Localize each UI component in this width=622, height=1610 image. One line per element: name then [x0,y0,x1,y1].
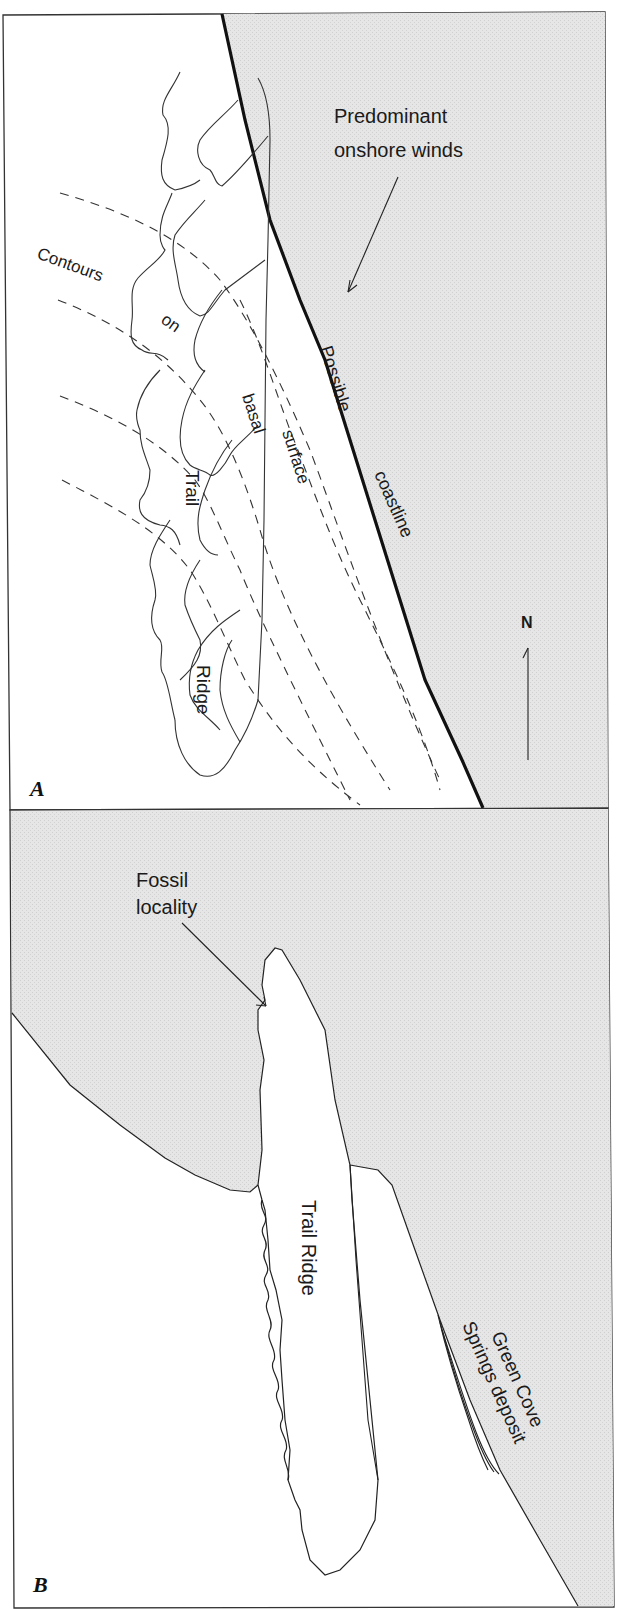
winds-label-line2: onshore winds [334,139,463,161]
panel-b: Fossil locality Trail Ridge Green Cove S… [10,808,614,1608]
panel-b-letter: B [32,1572,48,1597]
ridge-label-trail: Trail [182,470,203,506]
panel-a: Predominant onshore winds Contours on ba… [3,12,608,810]
panel-a-letter: A [28,776,45,801]
ridge-label-ridge: Ridge [193,665,214,715]
trail-ridge-label: Trail Ridge [298,1200,320,1296]
north-label: N [521,614,533,631]
fossil-label-line2: locality [136,896,197,918]
trail-ridge-figure: Predominant onshore winds Contours on ba… [0,0,622,1610]
winds-label-line1: Predominant [334,105,448,127]
fossil-label-line1: Fossil [136,869,188,891]
